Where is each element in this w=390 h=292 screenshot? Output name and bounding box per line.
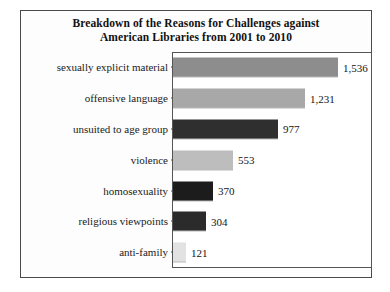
bar-offensive-language	[173, 89, 305, 108]
bar-violence	[173, 150, 233, 169]
category-label-anti-family: anti-family	[119, 246, 168, 258]
bar-rows: sexually explicit material 1,536 offensi…	[0, 52, 390, 268]
bar-container: 370	[173, 181, 213, 200]
bar-sexually-explicit-material	[173, 58, 338, 77]
bar-value-anti-family: 121	[191, 246, 208, 258]
bar-container: 1,536	[173, 58, 338, 77]
category-label-unsuited-to-age-group: unsuited to age group	[73, 123, 168, 135]
bar-value-unsuited-to-age-group: 977	[283, 123, 300, 135]
bar-container: 553	[173, 150, 233, 169]
chart-figure: Breakdown of the Reasons for Challenges …	[0, 0, 390, 292]
bar-row: religious viewpoints 304	[0, 206, 390, 237]
bar-container: 1,231	[173, 89, 305, 108]
bar-container: 977	[173, 119, 278, 138]
bar-row: anti-family 121	[0, 237, 390, 268]
bar-religious-viewpoints	[173, 212, 206, 231]
category-label-sexually-explicit-material: sexually explicit material	[57, 61, 168, 73]
bar-row: violence 553	[0, 144, 390, 175]
category-label-offensive-language: offensive language	[85, 92, 168, 104]
bar-row: offensive language 1,231	[0, 83, 390, 114]
bar-value-offensive-language: 1,231	[310, 92, 335, 104]
bar-anti-family	[173, 243, 186, 262]
category-label-violence: violence	[131, 154, 168, 166]
bar-value-violence: 553	[238, 154, 255, 166]
bar-row: unsuited to age group 977	[0, 114, 390, 145]
bar-value-religious-viewpoints: 304	[211, 215, 228, 227]
bar-row: sexually explicit material 1,536	[0, 52, 390, 83]
chart-title: Breakdown of the Reasons for Challenges …	[20, 16, 372, 44]
category-label-homosexuality: homosexuality	[103, 185, 168, 197]
bar-row: homosexuality 370	[0, 175, 390, 206]
bar-value-sexually-explicit-material: 1,536	[343, 61, 368, 73]
chart-title-line-1: Breakdown of the Reasons for Challenges …	[20, 16, 372, 30]
bar-value-homosexuality: 370	[218, 185, 235, 197]
bar-unsuited-to-age-group	[173, 119, 278, 138]
category-label-religious-viewpoints: religious viewpoints	[78, 215, 168, 227]
chart-title-line-2: American Libraries from 2001 to 2010	[20, 30, 372, 44]
bar-container: 121	[173, 243, 186, 262]
bar-container: 304	[173, 212, 206, 231]
bar-homosexuality	[173, 181, 213, 200]
